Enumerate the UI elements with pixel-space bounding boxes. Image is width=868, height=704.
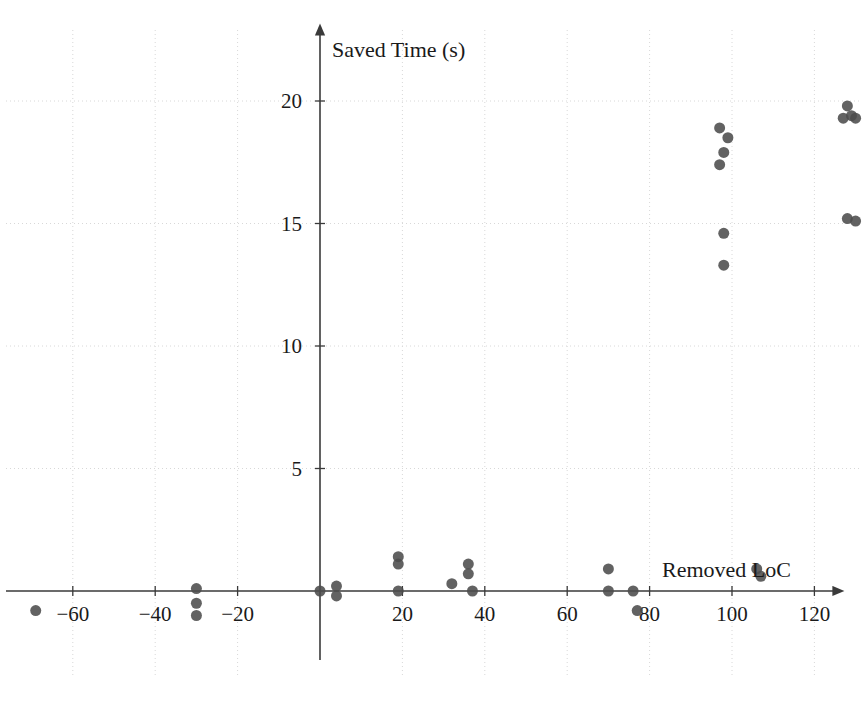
data-point — [850, 216, 861, 227]
data-point — [446, 578, 457, 589]
x-tick-label: −40 — [139, 602, 172, 626]
data-point — [714, 122, 725, 133]
data-point — [842, 100, 853, 111]
data-point — [628, 586, 639, 597]
x-tick-label: 120 — [799, 602, 831, 626]
data-point — [718, 260, 729, 271]
x-tick-label: −60 — [56, 602, 89, 626]
x-tick-label: −20 — [221, 602, 254, 626]
data-point — [850, 113, 861, 124]
y-tick-label: 10 — [281, 334, 302, 358]
data-point — [191, 610, 202, 621]
data-point — [30, 605, 41, 616]
scatter-plot-figure: −60−40−20204060801001205101520 Removed L… — [0, 0, 868, 704]
x-tick-label: 100 — [716, 602, 748, 626]
data-point — [315, 586, 326, 597]
axis-ticks: −60−40−20204060801001205101520 — [56, 89, 830, 626]
data-point — [603, 586, 614, 597]
y-axis-label: Saved Time (s) — [332, 37, 465, 62]
data-point — [331, 590, 342, 601]
data-point — [467, 586, 478, 597]
data-point — [722, 132, 733, 143]
data-point — [632, 605, 643, 616]
plot-canvas: −60−40−20204060801001205101520 Removed L… — [0, 0, 868, 704]
data-point — [331, 581, 342, 592]
data-point — [463, 559, 474, 570]
x-tick-label: 80 — [639, 602, 660, 626]
data-point — [393, 559, 404, 570]
x-tick-label: 40 — [474, 602, 495, 626]
data-point — [191, 583, 202, 594]
data-point — [714, 159, 725, 170]
data-point — [603, 563, 614, 574]
x-tick-label: 60 — [557, 602, 578, 626]
y-tick-label: 20 — [281, 89, 302, 113]
y-tick-label: 15 — [281, 212, 302, 236]
x-tick-label: 20 — [392, 602, 413, 626]
data-point — [463, 568, 474, 579]
data-point — [393, 586, 404, 597]
data-point — [191, 598, 202, 609]
y-tick-label: 5 — [292, 457, 303, 481]
data-point — [718, 147, 729, 158]
data-point — [718, 228, 729, 239]
data-point — [838, 113, 849, 124]
x-axis-label: Removed LoC — [662, 557, 791, 582]
